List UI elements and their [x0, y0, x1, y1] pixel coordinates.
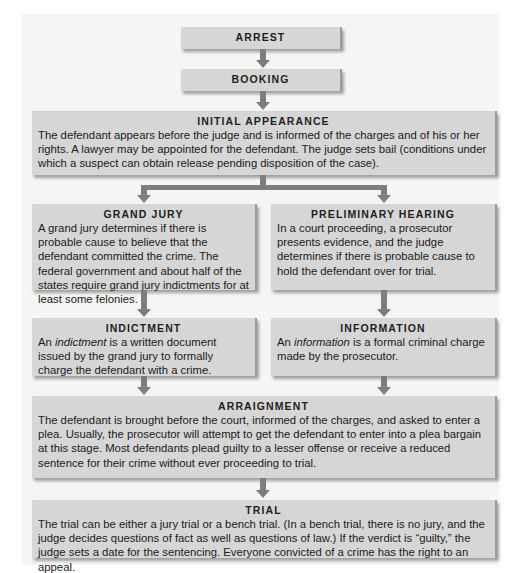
node-title: PRELIMINARY HEARING [277, 207, 489, 221]
node-title: INFORMATION [277, 321, 489, 335]
node-initial-appearance: INITIAL APPEARANCE The defendant appears… [32, 111, 497, 175]
node-booking: BOOKING [181, 69, 342, 91]
arrow-down-icon [256, 490, 270, 498]
node-description: The trial can be either a jury trial or … [38, 517, 489, 573]
arrow-shaft [381, 290, 387, 310]
arrow-shaft [141, 290, 147, 310]
term-information: information [294, 336, 350, 348]
node-trial: TRIAL The trial can be either a jury tri… [32, 500, 497, 558]
node-indictment: INDICTMENT An indictment is a written do… [32, 318, 257, 376]
node-title: GRAND JURY [38, 207, 249, 221]
node-title: BOOKING [187, 72, 334, 87]
node-information: INFORMATION An information is a formal c… [271, 318, 497, 376]
connector-branch [141, 185, 387, 190]
arrow-down-icon [256, 60, 270, 68]
arrow-down-icon [137, 195, 151, 203]
node-preliminary-hearing: PRELIMINARY HEARING In a court proceedin… [271, 204, 497, 290]
node-description: The defendant appears before the judge a… [38, 128, 489, 171]
arrow-down-icon [137, 387, 151, 395]
arrow-down-icon [377, 309, 391, 317]
arrow-down-icon [377, 195, 391, 203]
node-title: INDICTMENT [38, 321, 249, 335]
arrow-down-icon [256, 102, 270, 110]
node-description: An indictment is a written document issu… [38, 335, 249, 378]
node-description: The defendant is brought before the cour… [38, 413, 489, 470]
node-description: In a court proceeding, a prosecutor pres… [277, 221, 489, 278]
node-title: ARRAIGNMENT [38, 399, 489, 413]
term-indictment: indictment [55, 336, 107, 348]
node-description: An information is a formal criminal char… [277, 335, 489, 363]
arrow-down-icon [137, 309, 151, 317]
node-arraignment: ARRAIGNMENT The defendant is brought bef… [32, 396, 497, 478]
node-title: ARREST [187, 30, 334, 45]
node-title: INITIAL APPEARANCE [38, 114, 489, 128]
node-arrest: ARREST [181, 27, 342, 49]
arrow-down-icon [377, 387, 391, 395]
node-title: TRIAL [38, 503, 489, 517]
node-grand-jury: GRAND JURY A grand jury determines if th… [32, 204, 257, 290]
